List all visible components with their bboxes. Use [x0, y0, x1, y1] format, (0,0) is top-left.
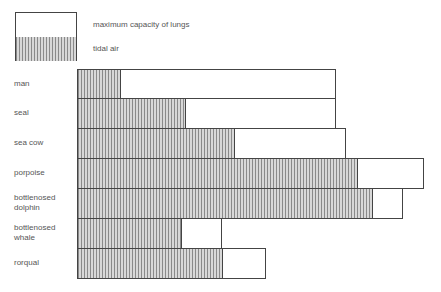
- category-label: bottlenoseddolphin: [14, 193, 55, 213]
- category-label-line2: whale: [14, 233, 55, 243]
- category-label: rorqual: [14, 258, 39, 268]
- bar-chart: mansealsea cowporpoisebottlenoseddolphin…: [0, 0, 441, 292]
- category-label-line1: sea cow: [14, 138, 43, 148]
- bar-max-capacity: [77, 248, 266, 279]
- bar-max-capacity: [77, 218, 222, 249]
- bar-tidal-air: [78, 189, 373, 218]
- category-label: sea cow: [14, 138, 43, 148]
- bar-max-capacity: [77, 158, 424, 189]
- bar-tidal-air: [78, 70, 121, 98]
- bar-tidal-air: [78, 99, 186, 128]
- category-label-line1: rorqual: [14, 258, 39, 268]
- category-label-line1: man: [14, 79, 30, 89]
- bar-max-capacity: [77, 98, 336, 129]
- category-label: seal: [14, 108, 29, 118]
- category-label: man: [14, 79, 30, 89]
- category-label: porpoise: [14, 168, 45, 178]
- category-label-line1: porpoise: [14, 168, 45, 178]
- bar-tidal-air: [78, 129, 235, 158]
- bar-tidal-air: [78, 249, 223, 278]
- category-label-line2: dolphin: [14, 203, 55, 213]
- bar-max-capacity: [77, 188, 403, 219]
- category-label-line1: bottlenosed: [14, 193, 55, 203]
- category-label-line1: seal: [14, 108, 29, 118]
- bar-tidal-air: [78, 159, 358, 188]
- bar-max-capacity: [77, 69, 336, 99]
- bar-tidal-air: [78, 219, 182, 248]
- category-label: bottlenosedwhale: [14, 223, 55, 243]
- bar-max-capacity: [77, 128, 346, 159]
- category-label-line1: bottlenosed: [14, 223, 55, 233]
